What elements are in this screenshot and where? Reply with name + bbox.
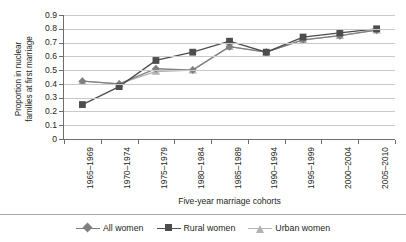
data-point-square xyxy=(79,101,86,108)
gridline xyxy=(64,43,395,44)
series-layer xyxy=(64,15,395,139)
chart-legend: All womenRural womenUrban women xyxy=(0,214,406,236)
y-axis-tick-label: 0.3 xyxy=(35,93,57,102)
x-axis-tick-mark xyxy=(174,140,175,144)
legend-item-urban-women[interactable]: Urban women xyxy=(248,223,330,233)
x-axis-tick-label: 1990–1994 xyxy=(270,147,279,201)
data-point-square xyxy=(336,30,343,37)
gridline xyxy=(64,29,395,30)
x-axis-tick-mark xyxy=(248,140,249,144)
triangle-marker-icon xyxy=(256,225,264,233)
x-axis-tick-label: 1980–1984 xyxy=(197,147,206,201)
x-axis-line xyxy=(63,139,395,140)
gridline xyxy=(64,98,395,99)
chart-figure: Proportion in nuclear families at first … xyxy=(0,0,406,242)
gridline xyxy=(64,15,395,16)
x-axis-tick-label: 1995–1999 xyxy=(307,147,316,201)
legend-swatch xyxy=(248,223,272,233)
x-axis-tick-mark xyxy=(358,140,359,144)
legend-label: All women xyxy=(103,223,144,233)
y-axis-title-line1: Proportion in nuclear xyxy=(14,42,23,117)
legend-item-all-women[interactable]: All women xyxy=(76,223,144,233)
y-axis-tick-label: 0.8 xyxy=(35,24,57,33)
x-axis-tick-label: 2005–2010 xyxy=(381,147,390,201)
y-axis-tick-label: 0.7 xyxy=(35,38,57,47)
x-axis-tick-label: 1970–1974 xyxy=(123,147,132,201)
plot-area xyxy=(64,15,395,139)
data-point-square xyxy=(189,49,196,56)
gridline xyxy=(64,70,395,71)
y-axis-tick-label: 0.5 xyxy=(35,66,57,75)
data-point-square xyxy=(226,38,233,45)
x-axis-tick-label: 1975–1979 xyxy=(160,147,169,201)
gridline xyxy=(64,84,395,85)
legend-swatch xyxy=(76,223,100,233)
y-axis-tick-label: 0.1 xyxy=(35,121,57,130)
x-axis-tick-mark xyxy=(64,140,65,144)
data-point-square xyxy=(300,34,307,41)
y-axis-tick-label: 0.2 xyxy=(35,107,57,116)
square-marker-icon xyxy=(165,224,172,231)
gridline xyxy=(64,125,395,126)
legend-label: Rural women xyxy=(184,223,236,233)
x-axis-tick-mark xyxy=(101,140,102,144)
x-axis-tick-label: 1965–1969 xyxy=(86,147,95,201)
gridline xyxy=(64,111,395,112)
x-axis-tick-mark xyxy=(138,140,139,144)
legend-swatch xyxy=(157,223,181,233)
x-axis-title: Five-year marriage cohorts xyxy=(64,196,395,206)
y-axis-tick-label: 0 xyxy=(35,135,57,144)
diamond-marker-icon xyxy=(82,223,92,233)
x-axis-tick-mark xyxy=(211,140,212,144)
legend-label: Urban women xyxy=(275,223,330,233)
x-axis-tick-mark xyxy=(395,140,396,144)
x-axis-tick-label: 1985–1989 xyxy=(234,147,243,201)
y-axis-tick-label: 0.9 xyxy=(35,11,57,20)
y-axis-tick-label: 0.6 xyxy=(35,52,57,61)
y-axis-tick-label: 0.4 xyxy=(35,80,57,89)
legend-item-rural-women[interactable]: Rural women xyxy=(157,223,236,233)
x-axis-tick-label: 2000–2004 xyxy=(344,147,353,201)
x-axis-tick-mark xyxy=(285,140,286,144)
gridline xyxy=(64,56,395,57)
data-point-square xyxy=(153,57,160,64)
x-axis-tick-mark xyxy=(321,140,322,144)
y-axis-title-line2: families at first marriage xyxy=(25,36,34,122)
data-point-square xyxy=(263,49,270,56)
